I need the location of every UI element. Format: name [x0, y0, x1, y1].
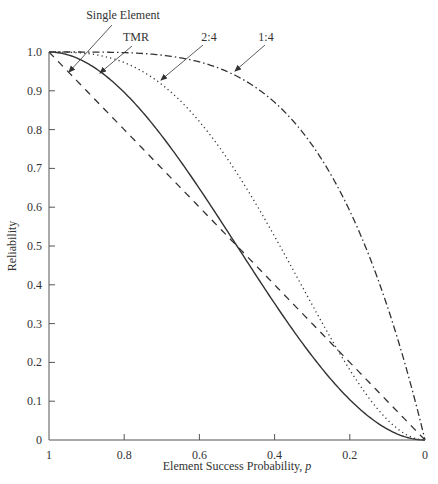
- annotation-1-of-4: 1:4: [258, 30, 273, 44]
- y-tick-label: 0: [36, 433, 42, 447]
- y-tick-label: 1.0: [27, 45, 42, 59]
- x-tick-label: 0: [422, 448, 428, 462]
- x-tick-label: 0.8: [117, 448, 132, 462]
- y-tick-label: 0.4: [27, 278, 42, 292]
- x-tick-label: 1: [46, 448, 52, 462]
- arrow-tmr: [100, 46, 132, 73]
- y-tick-label: 0.7: [27, 161, 42, 175]
- y-ticks: 00.10.20.30.40.50.60.70.80.91.0: [27, 45, 55, 447]
- reliability-chart: 00.10.20.30.40.50.60.70.80.91.0 10.80.60…: [0, 0, 438, 484]
- y-tick-label: 0.8: [27, 123, 42, 137]
- y-tick-label: 0.9: [27, 84, 42, 98]
- x-ticks: 10.80.60.40.20: [46, 434, 428, 462]
- annotation-2-of-4: 2:4: [201, 30, 216, 44]
- x-axis-title: Element Success Probability, p: [163, 459, 312, 473]
- y-tick-label: 0.1: [27, 394, 42, 408]
- y-tick-label: 0.3: [27, 317, 42, 331]
- arrow-1-of-4: [235, 45, 265, 71]
- annotation-single-element: Single Element: [86, 8, 160, 22]
- y-tick-label: 0.6: [27, 200, 42, 214]
- annotation-tmr: TMR: [123, 30, 149, 44]
- x-tick-label: 0.2: [342, 448, 357, 462]
- plot-curves: [49, 52, 425, 440]
- y-tick-label: 0.5: [27, 239, 42, 253]
- arrow-2-of-4: [161, 45, 203, 80]
- y-axis-title: Reliability: [5, 221, 19, 272]
- y-tick-label: 0.2: [27, 355, 42, 369]
